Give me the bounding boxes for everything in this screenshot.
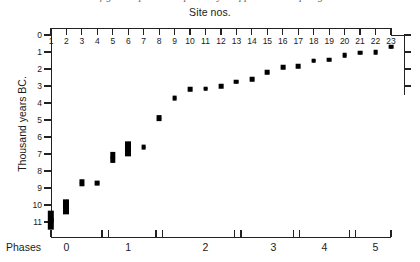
site-tick-label-1: 1 — [49, 36, 54, 46]
site-tick-9 — [174, 28, 175, 35]
data-point — [48, 211, 54, 230]
y-tick-label-9: 9 — [26, 183, 42, 193]
site-tick-8 — [159, 28, 160, 35]
data-point — [141, 145, 146, 150]
data-point-marker — [188, 87, 193, 92]
y-tick-5 — [44, 119, 51, 120]
data-point — [203, 86, 208, 91]
y-tick-label-8: 8 — [26, 166, 42, 176]
site-tick-label-16: 16 — [278, 36, 287, 46]
site-tick-11 — [205, 28, 206, 35]
phase-axis-line — [51, 237, 391, 238]
data-point — [342, 53, 347, 58]
site-tick-5 — [112, 28, 113, 35]
site-tick-10 — [189, 28, 190, 35]
data-point — [219, 84, 224, 89]
data-point-marker — [79, 179, 84, 186]
y-tick-6 — [44, 136, 51, 137]
data-point — [125, 141, 131, 156]
data-point — [265, 70, 270, 75]
site-tick-label-11: 11 — [201, 36, 210, 46]
y-tick-0 — [44, 34, 51, 35]
y-tick-label-0: 0 — [26, 30, 42, 40]
data-point-marker — [280, 65, 285, 70]
data-point-marker — [250, 77, 255, 82]
data-point — [157, 115, 162, 121]
site-tick-16 — [282, 28, 283, 35]
data-point — [358, 51, 363, 56]
site-tick-label-17: 17 — [294, 36, 303, 46]
y-tick-label-11: 11 — [26, 217, 42, 227]
data-point — [110, 152, 115, 162]
phase-boundary-tick-9 — [349, 230, 350, 237]
data-point-marker — [172, 96, 177, 101]
data-point-marker — [234, 80, 239, 85]
y-tick-label-5: 5 — [26, 115, 42, 125]
site-tick-6 — [128, 28, 129, 35]
y-tick-right-3 — [404, 85, 411, 86]
site-tick-18 — [313, 28, 314, 35]
phase-boundary-tick-4 — [162, 230, 163, 237]
site-tick-label-19: 19 — [324, 36, 333, 46]
data-point — [79, 179, 84, 186]
phases-label: Phases — [6, 241, 41, 253]
site-tick-label-18: 18 — [309, 36, 318, 46]
site-tick-label-5: 5 — [110, 36, 115, 46]
data-point-marker — [311, 58, 316, 63]
phase-label-4: 4 — [322, 241, 328, 253]
data-point-marker — [358, 51, 363, 56]
site-tick-13 — [236, 28, 237, 35]
chart-title: Site nos. — [0, 6, 420, 18]
site-tick-label-4: 4 — [95, 36, 100, 46]
y-tick-label-7: 7 — [26, 149, 42, 159]
data-point-marker — [141, 145, 146, 150]
y-tick-right-2 — [404, 68, 411, 69]
data-point-marker — [95, 181, 100, 186]
data-point-marker — [327, 57, 332, 62]
site-tick-19 — [329, 28, 330, 35]
phase-boundary-tick-2 — [108, 230, 109, 237]
y-tick-label-3: 3 — [26, 81, 42, 91]
data-point — [234, 80, 239, 85]
phase-boundary-tick-0 — [50, 230, 51, 237]
site-tick-23 — [390, 28, 391, 35]
data-point-marker — [296, 64, 301, 69]
site-tick-2 — [66, 28, 67, 35]
y-tick-label-1: 1 — [26, 47, 42, 57]
y-tick-4 — [44, 102, 51, 103]
site-tick-label-8: 8 — [157, 36, 162, 46]
site-tick-label-2: 2 — [64, 36, 69, 46]
y-tick-label-10: 10 — [26, 200, 42, 210]
data-point-marker — [48, 211, 54, 230]
phase-boundary-tick-11 — [390, 230, 391, 237]
site-tick-4 — [97, 28, 98, 35]
clipped-caption: a figure caption line partially cropped … — [0, 0, 420, 3]
site-tick-17 — [298, 28, 299, 35]
site-tick-label-9: 9 — [172, 36, 177, 46]
y-tick-label-4: 4 — [26, 98, 42, 108]
site-tick-7 — [143, 28, 144, 35]
data-point-marker — [63, 199, 69, 214]
y-tick-3 — [44, 85, 51, 86]
data-point — [389, 45, 394, 50]
phase-boundary-tick-7 — [293, 230, 294, 237]
phase-label-2: 2 — [203, 241, 209, 253]
site-tick-15 — [267, 28, 268, 35]
site-tick-21 — [359, 28, 360, 35]
y-tick-10 — [44, 204, 51, 205]
site-tick-label-3: 3 — [80, 36, 85, 46]
phase-label-1: 1 — [125, 241, 131, 253]
data-point-marker — [125, 141, 131, 156]
data-point-marker — [342, 53, 347, 58]
y-tick-7 — [44, 153, 51, 154]
y-tick-right-0 — [404, 34, 411, 35]
phase-label-5: 5 — [373, 241, 379, 253]
phase-boundary-tick-10 — [355, 230, 356, 237]
y-tick-label-2: 2 — [26, 64, 42, 74]
data-point — [188, 87, 193, 92]
phase-label-0: 0 — [64, 241, 70, 253]
site-tick-22 — [375, 28, 376, 35]
data-point-marker — [265, 70, 270, 75]
site-tick-20 — [344, 28, 345, 35]
data-point — [95, 181, 100, 186]
